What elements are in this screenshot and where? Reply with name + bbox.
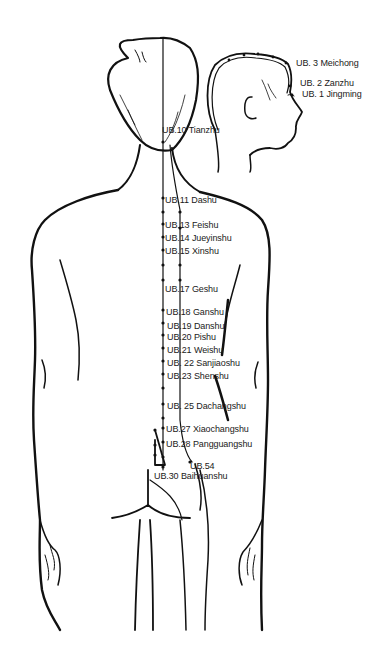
torso-left bbox=[32, 190, 118, 630]
label-ub10-tianzhu: UB.10 Tianzhu bbox=[162, 125, 220, 135]
label-ub30-baihuanshu: UB.30 Baihuanshu bbox=[154, 471, 227, 481]
label-ub22-sanjiaoshu: UB. 22 Sanjiaoshu bbox=[167, 358, 240, 368]
label-ub27-xiaochangshu: UB.27 Xiaochangshu bbox=[166, 424, 249, 434]
neck-left bbox=[118, 145, 140, 190]
ear-icon bbox=[245, 97, 256, 119]
label-ub25-dachangshu: UB. 25 Dachangshu bbox=[167, 401, 246, 411]
label-ub54: UB.54 bbox=[190, 461, 215, 471]
label-ub20-pishu: UB.20 Pishu bbox=[167, 332, 216, 342]
label-ub3-meichong: UB. 3 Meichong bbox=[296, 58, 359, 68]
label-ub21-weishu: UB.21 Weishu bbox=[167, 345, 223, 355]
label-ub19-danshu: UB.19 Danshu bbox=[167, 321, 224, 331]
ub-outer-line bbox=[170, 145, 192, 462]
label-ub28-pangguangshu: UB.28 Pangguangshu bbox=[166, 439, 252, 449]
profile-head-outline bbox=[208, 53, 303, 155]
label-ub14-jueyinshu: UB.14 Jueyinshu bbox=[165, 233, 232, 243]
label-ub1-jingming: UB. 1 Jingming bbox=[302, 89, 362, 99]
torso-right bbox=[200, 192, 270, 630]
buttocks-outline bbox=[112, 505, 190, 518]
label-ub13-feishu: UB.13 Feishu bbox=[165, 220, 218, 230]
label-ub23-shenshu: UB.23 Shenshu bbox=[167, 371, 229, 381]
label-ub17-geshu: UB.17 Geshu bbox=[165, 284, 218, 294]
label-ub2-zanzhu: UB. 2 Zanzhu bbox=[300, 78, 354, 88]
meridian-diagram: UB. 3 Meichong UB. 2 Zanzhu UB. 1 Jingmi… bbox=[0, 0, 378, 645]
neck-right bbox=[172, 148, 200, 192]
label-ub11-dashu: UB.11 Dashu bbox=[165, 195, 217, 205]
label-ub15-xinshu: UB.15 Xinshu bbox=[165, 246, 219, 256]
label-ub18-ganshu: UB.18 Ganshu bbox=[166, 307, 224, 317]
